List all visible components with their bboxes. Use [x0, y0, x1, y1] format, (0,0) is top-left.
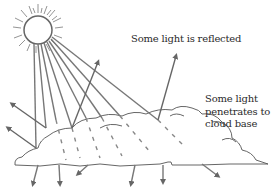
penetrates-label-line-3: cloud base	[205, 118, 270, 131]
penetrates-label: Some light penetrates to cloud base	[205, 93, 270, 131]
penetrates-label-line-1: Some light	[205, 93, 270, 106]
penetrates-label-line-2: penetrates to	[205, 106, 270, 119]
diagram-canvas: $ Some light is reflected Some light pen…	[0, 0, 271, 188]
reflected-arrows	[8, 56, 176, 148]
incoming-rays	[34, 37, 158, 148]
transmitted-arrows: $	[33, 164, 218, 184]
reflected-label: Some light is reflected	[131, 33, 241, 46]
penetrating-rays	[56, 116, 186, 160]
